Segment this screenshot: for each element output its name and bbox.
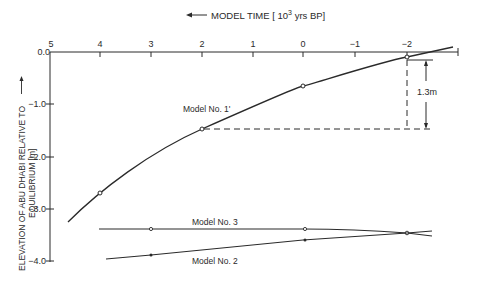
up-arrow-icon: [20, 76, 24, 81]
series-model-1: [68, 47, 453, 222]
svg-text:EQUILIBRIUM [m]: EQUILIBRIUM [m]: [27, 149, 37, 218]
svg-text:1: 1: [250, 39, 255, 49]
svg-text:ELEVATION OF ABU DHABI RELATIV: ELEVATION OF ABU DHABI RELATIVE TO: [17, 106, 27, 271]
svg-text:−2: −2: [402, 39, 412, 49]
arrow-down-icon: [424, 123, 428, 129]
chart: MODEL TIME [ 103 yrs BP] 5 4 3 2 1 0 −1 …: [0, 0, 477, 281]
svg-text:0.0: 0.0: [37, 47, 50, 57]
svg-text:−1: −1: [350, 39, 360, 49]
arrow-head-icon: [186, 13, 192, 18]
svg-text:−4.0: −4.0: [28, 256, 46, 266]
svg-text:4: 4: [97, 39, 102, 49]
svg-text:0: 0: [300, 39, 305, 49]
x-ticks: [100, 52, 407, 57]
x-tick-labels: 5 4 3 2 1 0 −1 −2: [48, 39, 412, 49]
label-model-3: Model No. 3: [192, 217, 238, 227]
svg-text:1.3m: 1.3m: [417, 87, 437, 97]
difference-dimension: 1.3m: [417, 60, 437, 129]
arrow-up-icon: [424, 60, 428, 66]
difference-guides: [204, 60, 432, 129]
svg-text:2: 2: [199, 39, 204, 49]
label-model-2: Model No. 2: [192, 256, 238, 266]
series-model-2: [106, 231, 432, 259]
title-text: MODEL TIME [ 103 yrs BP]: [211, 9, 325, 21]
svg-text:3: 3: [148, 39, 153, 49]
chart-title: MODEL TIME [ 103 yrs BP]: [186, 9, 325, 21]
series-model-1-markers: [98, 55, 409, 195]
label-model-1: Model No. 1': [183, 104, 231, 114]
svg-text:−1.0: −1.0: [28, 99, 46, 109]
